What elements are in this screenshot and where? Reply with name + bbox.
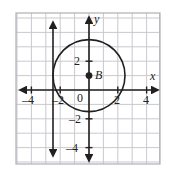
coordinate-plane-figure: x y 0 –4 –2 2 4 2 –2 –4 B (0, 0, 175, 181)
graph-canvas (0, 0, 175, 181)
plot-background (16, 13, 160, 164)
point-b-label: B (95, 69, 102, 81)
point-b-marker (86, 72, 93, 79)
x-tick-label-4: 4 (143, 94, 149, 106)
origin-label: 0 (77, 92, 83, 104)
y-axis-label: y (94, 13, 99, 25)
y-tick-label-2: 2 (74, 55, 80, 67)
x-tick-label-neg4: –4 (22, 94, 34, 106)
x-tick-label-2: 2 (114, 94, 120, 106)
y-tick-label-neg2: –2 (69, 113, 81, 125)
y-tick-label-neg4: –4 (66, 142, 78, 154)
x-axis-label: x (150, 70, 155, 82)
x-tick-label-neg2: –2 (52, 94, 64, 106)
